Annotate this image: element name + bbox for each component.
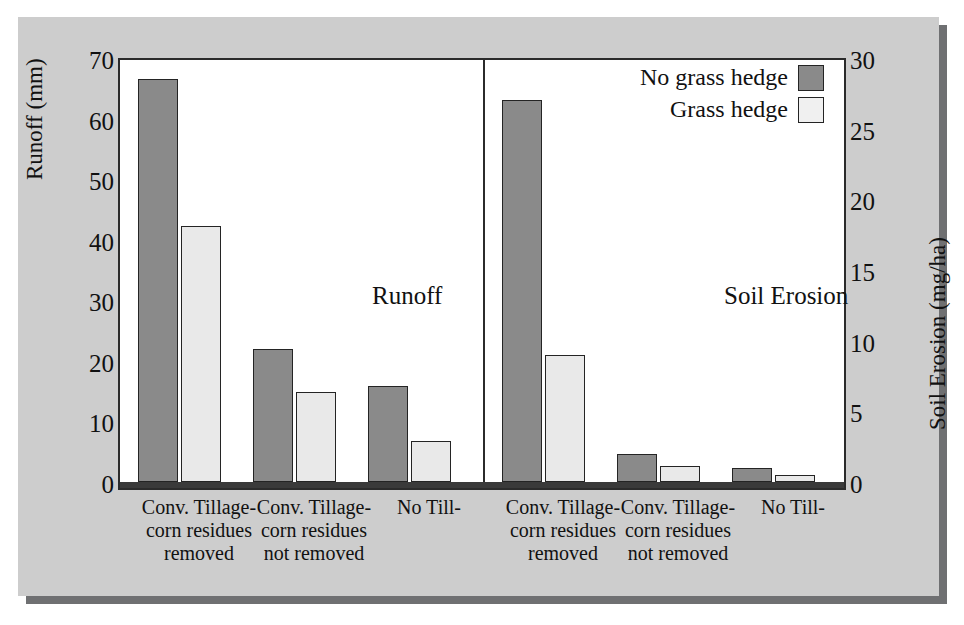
bar-group: [732, 468, 815, 482]
right-axis-tick-label: 30: [850, 48, 902, 73]
right-axis-tick-label: 25: [850, 118, 902, 143]
legend-label-no-grass-hedge: No grass hedge: [640, 64, 788, 91]
bar-group: [617, 454, 700, 482]
bar-grass-hedge: [660, 466, 700, 482]
figure-root: Runoff (mm) 706050403020100 Soil Erosion…: [0, 0, 964, 625]
x-axis-label-line: No Till-: [718, 496, 868, 519]
left-axis-tick-label: 60: [62, 108, 114, 133]
right-axis-tick-label: 5: [850, 401, 902, 426]
bar-no-grass-hedge: [732, 468, 772, 482]
panel-caption-soil-erosion: Soil Erosion: [724, 282, 848, 310]
right-axis-tick-label: 10: [850, 330, 902, 355]
bar-group: [368, 386, 451, 482]
bar-group: [502, 100, 585, 482]
x-axis-label-line: not removed: [603, 542, 753, 565]
x-axis-label-line: No Till-: [354, 496, 504, 519]
left-axis-tick-label: 0: [62, 472, 114, 497]
legend: No grass hedge Grass hedge: [640, 64, 824, 123]
left-axis-tick-label: 50: [62, 169, 114, 194]
left-axis-tick-label: 30: [62, 290, 114, 315]
bar-no-grass-hedge: [617, 454, 657, 482]
x-axis-label: No Till-: [354, 496, 504, 519]
x-axis-category-labels: Conv. Tillage-corn residuesremovedConv. …: [118, 496, 846, 586]
left-axis-tick-label: 20: [62, 350, 114, 375]
right-axis-tick-labels: 302520151050: [850, 58, 912, 490]
legend-label-grass-hedge: Grass hedge: [670, 96, 788, 123]
panel-divider: [483, 60, 485, 488]
right-axis-tick-label: 0: [850, 472, 902, 497]
x-axis-label-line: corn residues: [603, 519, 753, 542]
right-axis-tick-label: 20: [850, 189, 902, 214]
bar-grass-hedge: [411, 441, 451, 482]
bar-group: [253, 349, 336, 482]
left-axis-tick-labels: 706050403020100: [52, 58, 114, 490]
legend-swatch-no-grass-hedge: [798, 65, 824, 91]
right-axis-title: Soil Erosion (mg/ha): [925, 237, 951, 430]
legend-item-grass-hedge: Grass hedge: [640, 96, 824, 123]
x-axis-label-line: corn residues: [239, 519, 389, 542]
bar-no-grass-hedge: [502, 100, 542, 482]
left-axis-tick-label: 70: [62, 48, 114, 73]
legend-swatch-grass-hedge: [798, 97, 824, 123]
bar-grass-hedge: [775, 475, 815, 482]
bar-grass-hedge: [545, 355, 585, 482]
bar-grass-hedge: [181, 226, 221, 482]
legend-item-no-grass-hedge: No grass hedge: [640, 64, 824, 91]
left-axis-title: Runoff (mm): [22, 58, 48, 180]
x-axis-baseline: [120, 482, 844, 488]
x-axis-label: No Till-: [718, 496, 868, 519]
bar-grass-hedge: [296, 392, 336, 482]
right-axis-tick-label: 15: [850, 260, 902, 285]
bar-group: [138, 79, 221, 482]
panel-caption-runoff: Runoff: [372, 282, 442, 310]
x-axis-label-line: not removed: [239, 542, 389, 565]
left-axis-tick-label: 40: [62, 229, 114, 254]
bar-no-grass-hedge: [138, 79, 178, 482]
left-axis-tick-label: 10: [62, 411, 114, 436]
bar-no-grass-hedge: [253, 349, 293, 482]
bar-no-grass-hedge: [368, 386, 408, 482]
